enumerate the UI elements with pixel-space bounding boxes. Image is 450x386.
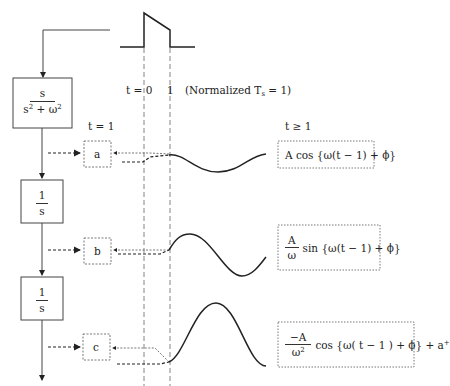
t0-label: t = 0 xyxy=(126,85,152,96)
input-feed-line xyxy=(43,30,110,77)
curve-b xyxy=(169,234,266,276)
state-c-label: c xyxy=(93,342,99,353)
curve-a xyxy=(169,154,266,172)
curve-c xyxy=(169,303,266,366)
formula-c: −A ω2 cos {ω( t − 1 ) + ϕ} + a+ xyxy=(285,322,450,367)
state-b-label: b xyxy=(94,246,101,257)
formula-a: A cos {ω(t − 1) + ϕ} xyxy=(285,141,396,168)
state-a-label: a xyxy=(94,149,100,160)
block-1-transfer-function: s s2 + ω2 xyxy=(13,88,72,114)
t-eq-1-label: t = 1 xyxy=(88,121,114,132)
block-2-integrator: 1 s xyxy=(21,190,63,216)
t1-label: 1 xyxy=(167,85,174,96)
block-3-integrator: 1 s xyxy=(21,287,63,313)
input-pulse xyxy=(120,13,195,47)
formula-b: A ω sin {ω(t − 1) + ϕ} xyxy=(285,225,401,270)
t-ge-1-label: t ≥ 1 xyxy=(285,121,311,132)
normalized-note: (Normalized Ts = 1) xyxy=(185,85,291,98)
